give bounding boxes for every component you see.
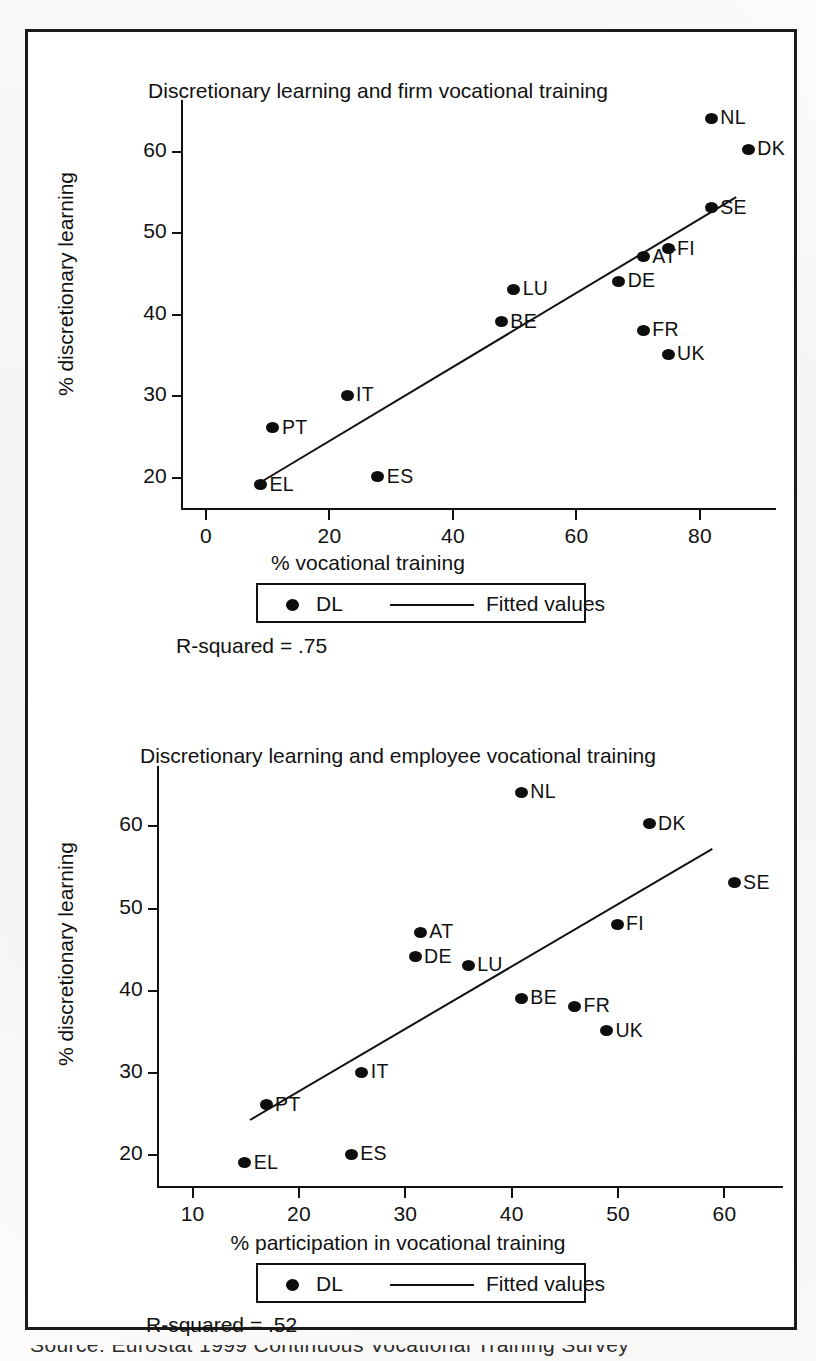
- x-tick-mark: [298, 1188, 300, 1198]
- x-tick-label: 80: [671, 524, 729, 548]
- scatter-point-se: [728, 877, 741, 888]
- scatter-point-it: [341, 390, 354, 401]
- x-tick-mark: [617, 1188, 619, 1198]
- x-tick-mark: [575, 510, 577, 520]
- x-tick-label: 0: [177, 524, 235, 548]
- x-tick-label: 40: [483, 1202, 541, 1226]
- x-tick-label: 50: [589, 1202, 647, 1226]
- x-tick-label: 30: [376, 1202, 434, 1226]
- y-tick-mark: [172, 232, 182, 234]
- scatter-point-de: [409, 951, 422, 962]
- scatter-point-fi: [611, 919, 624, 930]
- scatter-point-nl: [705, 113, 718, 124]
- chart-2-y-axis-title: % discretionary learning: [54, 824, 78, 1084]
- scatter-point-label-fi: FI: [626, 912, 644, 935]
- scatter-point-es: [345, 1149, 358, 1160]
- chart-firm-vocational-training: Discretionary learning and firm vocation…: [28, 32, 800, 642]
- scatter-point-label-fr: FR: [584, 994, 611, 1017]
- scatter-point-label-el: EL: [270, 473, 294, 496]
- scatter-point-label-fi: FI: [677, 237, 695, 260]
- y-tick-label: 60: [99, 812, 143, 836]
- legend-fitted-label: Fitted values: [486, 592, 605, 616]
- scatter-point-label-pt: PT: [275, 1093, 301, 1116]
- y-tick-mark: [148, 1072, 158, 1074]
- x-tick-mark: [404, 1188, 406, 1198]
- scatter-point-dk: [742, 144, 755, 155]
- scatter-point-label-at: AT: [429, 920, 453, 943]
- legend-dl-label: DL: [316, 592, 343, 616]
- scatter-point-lu: [462, 960, 475, 971]
- legend-fitted-label: Fitted values: [486, 1272, 605, 1296]
- scatter-point-at: [637, 251, 650, 262]
- y-tick-label: 30: [99, 1059, 143, 1083]
- y-tick-label: 40: [99, 977, 143, 1001]
- scatter-point-label-be: BE: [530, 986, 557, 1009]
- scatter-point-nl: [515, 787, 528, 798]
- scatter-point-dk: [643, 818, 656, 829]
- scatter-point-it: [355, 1067, 368, 1078]
- y-tick-mark: [148, 990, 158, 992]
- scatter-point-label-es: ES: [360, 1142, 387, 1165]
- scatter-point-label-it: IT: [371, 1060, 389, 1083]
- scatter-point-label-dk: DK: [757, 137, 785, 160]
- y-tick-label: 60: [123, 138, 167, 162]
- scatter-point-label-at: AT: [652, 245, 676, 268]
- x-tick-mark: [699, 510, 701, 520]
- chart-1-plot-area: [181, 94, 775, 506]
- scatter-point-label-se: SE: [743, 871, 770, 894]
- scatter-point-label-de: DE: [628, 269, 656, 292]
- scatter-point-label-fr: FR: [652, 318, 679, 341]
- chart-employee-vocational-training: Discretionary learning and employee voca…: [28, 704, 800, 1324]
- y-tick-label: 30: [123, 382, 167, 406]
- figure-source-caption-text: Source: Eurostat 1999 Continuous Vocatio…: [30, 1345, 629, 1357]
- scatter-point-fr: [568, 1001, 581, 1012]
- y-tick-mark: [172, 477, 182, 479]
- scatter-point-label-be: BE: [510, 310, 537, 333]
- scatter-point-label-nl: NL: [720, 106, 746, 129]
- scatter-point-label-lu: LU: [523, 277, 549, 300]
- x-tick-mark: [205, 510, 207, 520]
- legend-fitted-line-marker: [390, 1284, 474, 1286]
- x-tick-label: 60: [547, 524, 605, 548]
- x-tick-mark: [192, 1188, 194, 1198]
- y-tick-mark: [172, 151, 182, 153]
- chart-2-x-axis: [157, 1186, 783, 1188]
- chart-1-x-axis: [181, 508, 776, 510]
- x-tick-label: 20: [300, 524, 358, 548]
- y-tick-label: 20: [99, 1141, 143, 1165]
- y-tick-mark: [148, 908, 158, 910]
- scatter-point-be: [515, 993, 528, 1004]
- x-tick-mark: [511, 1188, 513, 1198]
- legend-dl-marker: [286, 599, 299, 611]
- legend-dl-label: DL: [316, 1272, 343, 1296]
- chart-1-rsquared: R-squared = .75: [176, 634, 327, 658]
- scatter-point-de: [612, 276, 625, 287]
- legend-fitted-line-marker: [390, 604, 474, 606]
- scatter-point-label-nl: NL: [530, 780, 556, 803]
- scatter-point-label-it: IT: [356, 383, 374, 406]
- y-tick-label: 50: [123, 219, 167, 243]
- y-tick-label: 50: [99, 895, 143, 919]
- x-tick-label: 20: [270, 1202, 328, 1226]
- x-tick-mark: [452, 510, 454, 520]
- chart-1-legend: DL Fitted values: [256, 583, 586, 623]
- scatter-point-label-dk: DK: [658, 812, 686, 835]
- scatter-point-fr: [637, 325, 650, 336]
- scatter-point-label-uk: UK: [677, 342, 705, 365]
- legend-dl-marker: [286, 1279, 299, 1291]
- chart-1-y-axis-title: % discretionary learning: [54, 154, 78, 414]
- scatter-point-label-se: SE: [720, 196, 747, 219]
- chart-2-y-axis: [157, 766, 159, 1187]
- y-tick-mark: [148, 825, 158, 827]
- scatter-point-label-uk: UK: [615, 1019, 643, 1042]
- y-tick-label: 20: [123, 464, 167, 488]
- scatter-point-uk: [662, 349, 675, 360]
- scatter-point-label-lu: LU: [477, 953, 503, 976]
- figure-source-caption-clipped: Source: Eurostat 1999 Continuous Vocatio…: [0, 1345, 816, 1361]
- chart-2-legend: DL Fitted values: [256, 1263, 586, 1303]
- chart-1-y-axis: [181, 100, 183, 509]
- scatter-point-at: [414, 927, 427, 938]
- x-tick-mark: [723, 1188, 725, 1198]
- chart-1-x-axis-title: % vocational training: [198, 551, 538, 575]
- chart-2-x-axis-title: % participation in vocational training: [138, 1231, 658, 1255]
